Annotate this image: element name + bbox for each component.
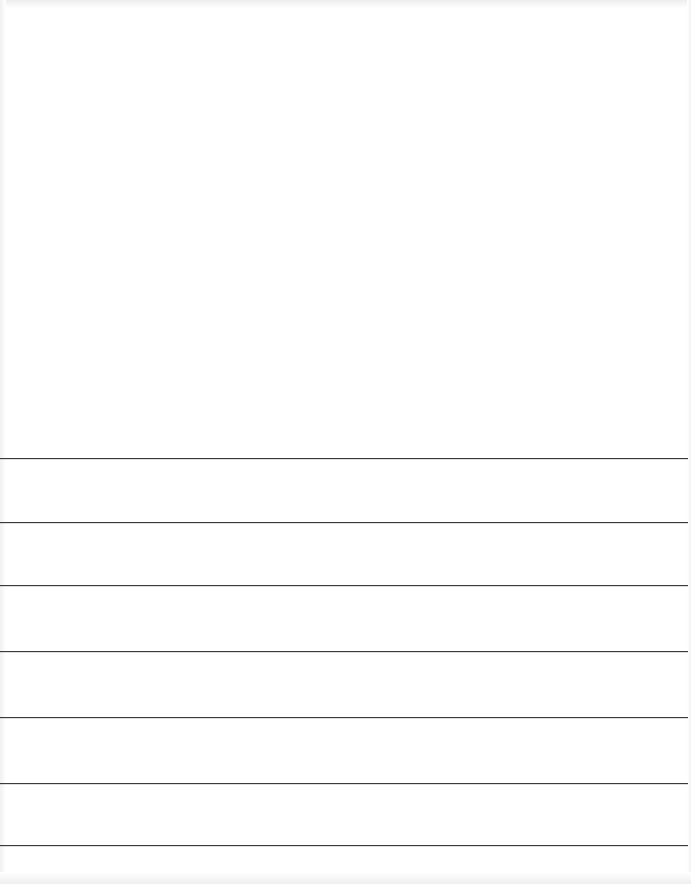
scan-edge-left [0,0,6,884]
ruled-line-5 [0,717,688,718]
ruled-line-3 [0,585,688,586]
ruled-line-6 [0,783,688,784]
scan-edge-bottom [0,872,691,884]
ruled-line-1 [0,458,688,459]
blank-lined-page [0,0,691,884]
ruled-line-4 [0,651,688,652]
scan-edge-right [687,0,691,884]
ruled-line-7 [0,845,688,846]
ruled-line-2 [0,522,688,523]
scan-edge-top [0,0,691,8]
